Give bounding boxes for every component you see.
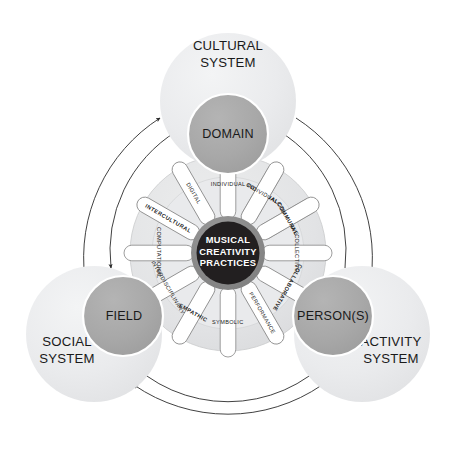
musical-creativity-diagram: COMMUNAL COLLECTIVE INDIVIDUAL	[0, 0, 456, 454]
social-system-label-2: SYSTEM	[39, 351, 94, 366]
cultural-system-label-1: CULTURAL	[193, 38, 263, 53]
spoke-label-computational: COMPUTATIONAL	[156, 227, 162, 279]
arc-field-to-persons	[125, 357, 331, 402]
hub-line-1: MUSICAL	[206, 235, 250, 245]
persons-label: PERSON(S)	[297, 309, 369, 323]
activity-system-label-1: ACTIVITY	[361, 334, 422, 349]
field-label: FIELD	[106, 309, 143, 323]
hub[interactable]: MUSICAL CREATIVITY PRACTICES	[191, 216, 265, 290]
domain-label: DOMAIN	[202, 127, 254, 141]
system-cultural[interactable]: CULTURAL SYSTEM DOMAIN	[160, 33, 296, 174]
diagram-canvas: COMMUNAL COLLECTIVE INDIVIDUAL	[0, 0, 456, 454]
hub-line-2: CREATIVITY	[199, 247, 257, 257]
activity-system-label-2: SYSTEM	[363, 351, 418, 366]
system-social[interactable]: SOCIAL SYSTEM FIELD	[26, 266, 163, 402]
spoke-label-symbolic: SYMBOLIC	[212, 319, 243, 325]
system-activity[interactable]: ACTIVITY SYSTEM PERSON(S)	[293, 266, 430, 402]
cultural-system-label-2: SYSTEM	[200, 55, 255, 70]
social-system-label-1: SOCIAL	[42, 334, 92, 349]
arc-persons-to-field	[134, 385, 322, 414]
hub-line-3: PRACTICES	[200, 258, 256, 268]
spoke-label-individual-2: INDIVIDUAL	[211, 181, 246, 187]
